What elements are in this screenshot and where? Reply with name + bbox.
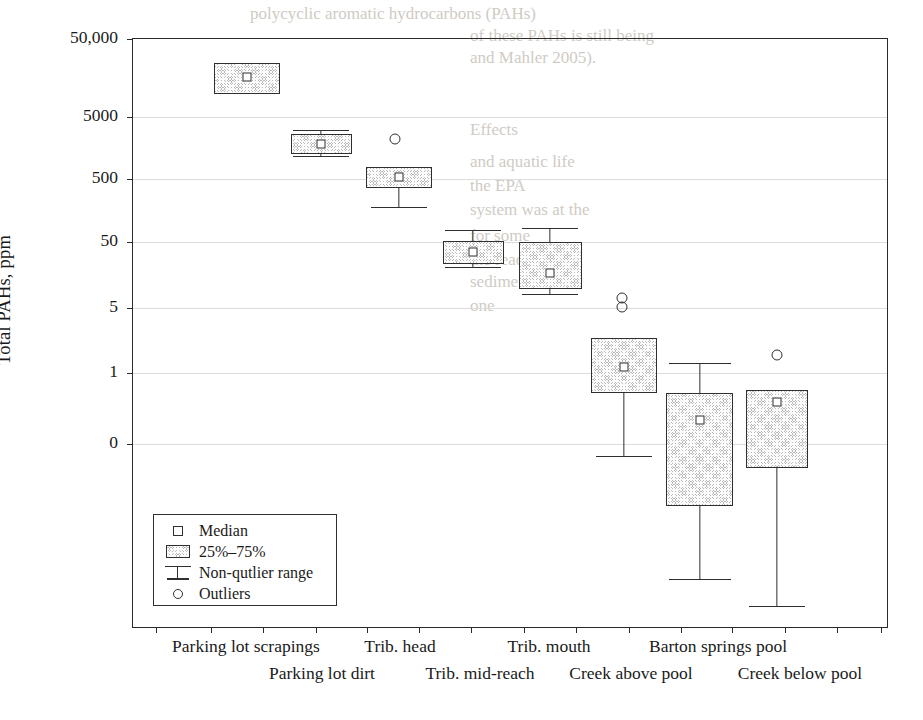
legend-row-range: Non-qutlier range	[161, 562, 329, 583]
range-bar-icon	[161, 565, 195, 581]
y-axis-tick-label: 0	[109, 434, 118, 452]
x-tick-mark	[881, 627, 882, 633]
x-tick-mark	[211, 627, 212, 633]
x-tick-mark	[681, 627, 682, 633]
x-axis-label: Creek below pool	[738, 663, 862, 684]
x-axis-category-labels: Parking lot scrapingsParking lot dirtTri…	[0, 636, 923, 696]
legend-label-range: Non-qutlier range	[195, 564, 313, 582]
x-tick-mark	[471, 627, 472, 633]
median-square-icon	[161, 526, 195, 536]
median-marker	[773, 398, 782, 407]
plot-area: Median 25%–75% Non-qutlier range Outlier…	[132, 38, 888, 628]
x-tick-mark	[576, 627, 577, 633]
y-axis-tick-label: 500	[92, 169, 118, 187]
x-axis-label: Trib. head	[364, 636, 435, 657]
x-axis-label: Barton springs pool	[649, 636, 787, 657]
x-tick-mark	[629, 627, 630, 633]
legend-label-outliers: Outliers	[195, 585, 251, 603]
x-tick-mark	[156, 627, 157, 633]
quartile-box-icon	[161, 545, 195, 558]
legend-label-quartile: 25%–75%	[195, 543, 266, 561]
x-axis-label: Trib. mouth	[508, 636, 591, 657]
x-axis-label: Creek above pool	[569, 663, 692, 684]
y-axis-tick-label: 50,000	[70, 29, 118, 47]
outlier-point	[772, 350, 783, 361]
x-tick-mark	[732, 627, 733, 633]
whisker-cap-bottom	[749, 606, 805, 607]
x-tick-mark	[785, 627, 786, 633]
outlier-circle-icon	[161, 589, 195, 599]
box-plot-figure: Total PAHs, ppm 50,000500050050510 Media…	[0, 0, 923, 720]
x-tick-mark	[419, 627, 420, 633]
x-tick-mark	[524, 627, 525, 633]
legend-row-median: Median	[161, 520, 329, 541]
x-tick-mark	[837, 627, 838, 633]
y-axis-tick-label: 5000	[83, 107, 118, 125]
legend-row-quartile: 25%–75%	[161, 541, 329, 562]
x-axis-label: Trib. mid-reach	[425, 663, 534, 684]
x-tick-mark	[367, 627, 368, 633]
x-axis-label: Parking lot dirt	[269, 663, 375, 684]
legend-row-outliers: Outliers	[161, 583, 329, 604]
y-axis-tick-label: 5	[109, 298, 118, 316]
x-tick-mark	[316, 627, 317, 633]
y-axis-tick-labels: 50,000500050050510	[0, 0, 126, 720]
legend-label-median: Median	[195, 522, 248, 540]
y-axis-tick-label: 50	[101, 232, 119, 250]
y-axis-tick-label: 1	[109, 363, 118, 381]
chart-legend: Median 25%–75% Non-qutlier range Outlier…	[153, 514, 337, 606]
x-tick-mark	[263, 627, 264, 633]
x-axis-label: Parking lot scrapings	[172, 636, 320, 657]
